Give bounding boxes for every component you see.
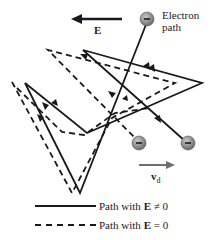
electron-end-no-field	[132, 136, 146, 150]
electric-field-arrow	[71, 14, 122, 24]
legend-solid-label: Path with E ≠ 0	[99, 201, 168, 212]
electron-end-with-field	[181, 136, 195, 150]
drift-velocity-label: vd	[151, 171, 161, 186]
electron-path-label-line2: path	[162, 22, 181, 33]
electron-path-label-line1: Electron	[162, 10, 199, 21]
drift-velocity-arrow	[139, 161, 175, 169]
electron-start	[140, 12, 154, 26]
electric-field-label: E	[94, 25, 101, 36]
legend-dashed-label: Path with E = 0	[99, 220, 168, 231]
path-with-field	[25, 22, 202, 193]
